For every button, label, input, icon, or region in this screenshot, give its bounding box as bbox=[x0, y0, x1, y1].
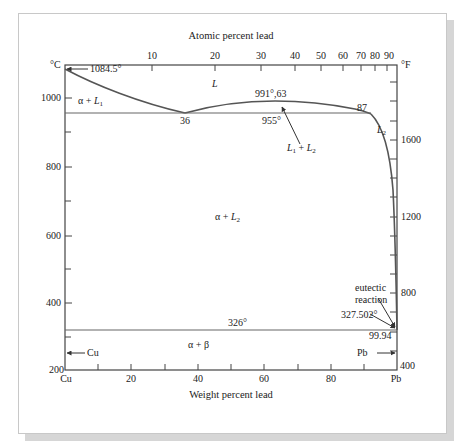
top-tick-labels: 10 20 30 40 50 60 70 80 90 bbox=[147, 50, 394, 61]
top-tick-label: 80 bbox=[370, 50, 380, 61]
pb-melting-label: 327.502° bbox=[341, 309, 378, 320]
top-tick-label: 30 bbox=[256, 50, 266, 61]
top-tick-label: 40 bbox=[290, 50, 300, 61]
fahrenheit-unit: °F bbox=[401, 59, 411, 70]
left-tick-label: 1000 bbox=[41, 92, 61, 103]
eutectic-temp-label: 326° bbox=[228, 317, 247, 328]
bottom-tick-label: 80 bbox=[326, 373, 336, 384]
cu-marker-label: Cu bbox=[87, 347, 99, 358]
top-tick-label: 90 bbox=[384, 50, 394, 61]
top-tick-label: 60 bbox=[338, 50, 348, 61]
right-tick-label: 1200 bbox=[401, 211, 421, 222]
left-tick-label: 400 bbox=[46, 297, 61, 308]
eutectic-label-2: reaction bbox=[355, 294, 387, 305]
bottom-tick-label: Pb bbox=[391, 373, 402, 384]
right-tick-label: 1600 bbox=[401, 134, 421, 145]
eutectic-label-1: eutectic bbox=[355, 282, 387, 293]
region-alpha-beta: α + β bbox=[188, 339, 209, 350]
right-tick-label: 800 bbox=[401, 287, 416, 298]
bottom-tick-labels: Cu 20 40 60 80 Pb bbox=[60, 373, 401, 384]
top-tick-label: 10 bbox=[147, 50, 157, 61]
left-tick-label: 800 bbox=[46, 161, 61, 172]
right-tick-label: 400 bbox=[400, 360, 415, 371]
region-l1-l2: L1 + L2 bbox=[286, 142, 316, 155]
eutectic-comp-label: 99.94 bbox=[369, 330, 392, 341]
bottom-axis-title: Weight percent lead bbox=[189, 389, 273, 400]
top-axis-title: Atomic percent lead bbox=[188, 30, 274, 41]
top-tick-label: 20 bbox=[210, 50, 220, 61]
monotectic-comp-label: 36 bbox=[180, 115, 190, 126]
cu-melting-label: 1084.5° bbox=[90, 63, 122, 74]
top-tick-label: 70 bbox=[356, 50, 366, 61]
liquidus-alpha-L1 bbox=[65, 69, 185, 113]
left-tick-labels: 1000 800 600 400 200 bbox=[41, 92, 64, 375]
bottom-tick-label: Cu bbox=[60, 373, 72, 384]
region-l2: L2 bbox=[376, 124, 387, 137]
miscibility-gap bbox=[185, 101, 371, 114]
bottom-tick-label: 20 bbox=[126, 373, 136, 384]
bottom-tick-label: 60 bbox=[259, 373, 269, 384]
critical-point-label: 991°,63 bbox=[255, 88, 287, 99]
right-tick-labels: 1600 1200 800 400 bbox=[400, 134, 421, 371]
top-ticks bbox=[152, 65, 387, 71]
region-alpha-l2: α + L2 bbox=[215, 211, 240, 224]
phase-diagram: Atomic percent lead 10 20 30 40 50 60 70… bbox=[0, 0, 462, 441]
region-liquid: L bbox=[211, 78, 218, 89]
pb-marker-label: Pb bbox=[357, 347, 368, 358]
top-tick-label: 50 bbox=[316, 50, 326, 61]
bottom-tick-label: 40 bbox=[193, 373, 203, 384]
celsius-unit: °C bbox=[50, 59, 61, 70]
bottom-ticks bbox=[98, 364, 364, 370]
left-ticks bbox=[65, 98, 72, 337]
region-alpha-l1: α + L1 bbox=[78, 95, 103, 108]
phase-boundaries bbox=[65, 69, 397, 330]
monotectic-temp-label: 955° bbox=[262, 115, 281, 126]
left-tick-label: 600 bbox=[46, 230, 61, 241]
l2-comp-label: 87 bbox=[357, 102, 367, 113]
